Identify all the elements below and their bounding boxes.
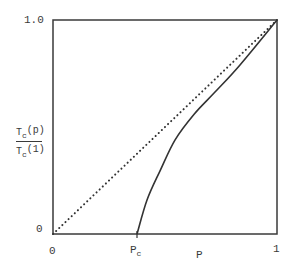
y-tick-0: 0 <box>36 224 43 235</box>
x-tick-1: 1 <box>273 244 280 255</box>
x-tick-0: 0 <box>49 246 56 257</box>
pc-subscript: c <box>137 249 142 258</box>
diagonal-reference-line <box>53 20 277 234</box>
pc-label: P <box>130 244 137 256</box>
x-axis-title: P <box>196 250 203 261</box>
y-title-denominator: Tc(1) <box>16 146 43 157</box>
y-axis-title: Tc(p) Tc(1) <box>16 127 43 157</box>
x-tick-pc: Pc <box>130 245 141 256</box>
y-title-numerator: Tc(p) <box>16 127 43 138</box>
fraction-bar <box>16 141 42 142</box>
tc-curve <box>137 20 277 234</box>
y-tick-1: 1.0 <box>24 15 44 26</box>
